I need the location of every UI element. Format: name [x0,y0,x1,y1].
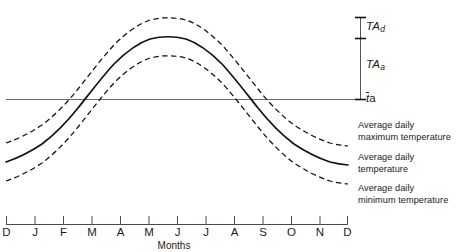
x-axis-tick-label: O [287,226,296,238]
x-axis [6,216,348,225]
legend-min-line1: Average daily [358,183,448,195]
x-axis-tick-label: N [316,226,324,238]
annotation-ta-a: TAa [366,58,385,72]
x-axis-tick-label: J [175,226,181,238]
legend-item-minimum-temperature: Average daily minimum temperature [358,183,448,206]
x-axis-tick-label: D [2,226,10,238]
annotation-ta-a-subscript: a [380,62,385,72]
x-axis-ticks [7,216,348,225]
annotation-ta-d-text: TA [366,20,380,32]
legend-max-line2: maximum temperature [358,132,451,144]
x-axis-tick-label: D [343,226,351,238]
legend-avg-line1: Average daily [358,152,414,164]
curve-average-daily-temperature [6,37,348,165]
legend-item-maximum-temperature: Average daily maximum temperature [358,120,451,143]
annotation-mean-temperature-subscript: a [369,92,375,104]
x-axis-title: Months [0,240,348,251]
annotation-ta-d-subscript: d [380,24,385,34]
annotation-mean-temperature: ta [366,92,376,105]
legend-item-average-temperature: Average daily temperature [358,152,414,175]
temperature-amplitude-chart: TAd TAa ta Average daily maximum tempera… [0,0,461,252]
curve-average-daily-minimum-temperature [6,56,348,184]
x-axis-tick-label: A [231,226,239,238]
x-axis-tick-label: F [60,226,67,238]
amplitude-scale-bar [355,17,366,100]
annotation-ta-a-text: TA [366,58,380,70]
legend-max-line1: Average daily [358,120,451,132]
x-axis-tick-label: M [144,226,154,238]
x-axis-tick-label: J [32,226,38,238]
x-axis-tick-label: S [259,226,267,238]
legend-avg-line2: temperature [358,164,414,176]
x-axis-tick-label: J [203,226,209,238]
x-axis-tick-label: A [117,226,125,238]
legend-min-line2: minimum temperature [358,195,448,207]
x-axis-tick-label: M [87,226,97,238]
annotation-ta-d: TAd [366,20,385,34]
